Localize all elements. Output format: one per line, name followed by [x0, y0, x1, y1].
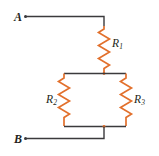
resistor-label-r2-base: R	[46, 93, 53, 105]
resistor-label-r3-base: R	[134, 93, 141, 105]
resistor-r3-symbol	[121, 74, 132, 127]
resistor-label-r1: R1	[112, 38, 123, 50]
resistor-r1-symbol	[99, 26, 110, 73]
resistor-r2-symbol	[59, 74, 70, 127]
resistor-label-r1-subscript: 1	[119, 42, 123, 51]
terminal-label-a: A	[14, 11, 22, 23]
circuit-diagram-figure: A B R1 R2 R3	[0, 0, 159, 156]
circuit-schematic	[0, 0, 159, 156]
terminal-label-b: B	[14, 133, 22, 145]
resistor-label-r1-base: R	[112, 37, 119, 49]
resistor-label-r3: R3	[134, 94, 145, 106]
wire-terminal-b-to-network	[26, 127, 105, 139]
wire-terminal-a-to-r1	[26, 17, 105, 27]
resistor-label-r3-subscript: 3	[141, 98, 145, 107]
terminal-b-dot	[24, 137, 27, 140]
resistor-label-r2: R2	[46, 94, 57, 106]
resistor-label-r2-subscript: 2	[53, 98, 57, 107]
